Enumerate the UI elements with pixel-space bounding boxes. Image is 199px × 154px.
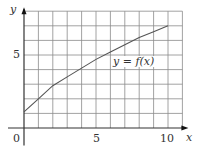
plot-area (0, 0, 199, 154)
y-tick-5: 5 (13, 49, 20, 60)
x-axis-label: x (186, 132, 192, 143)
x-tick-10: 10 (160, 133, 174, 144)
curve-label: y = f(x) (112, 56, 155, 67)
y-axis-label: y (10, 4, 16, 15)
origin-label: 0 (13, 133, 20, 144)
x-tick-5: 5 (93, 133, 100, 144)
x-arrow-icon (181, 126, 188, 131)
y-arrow-icon (22, 7, 27, 14)
